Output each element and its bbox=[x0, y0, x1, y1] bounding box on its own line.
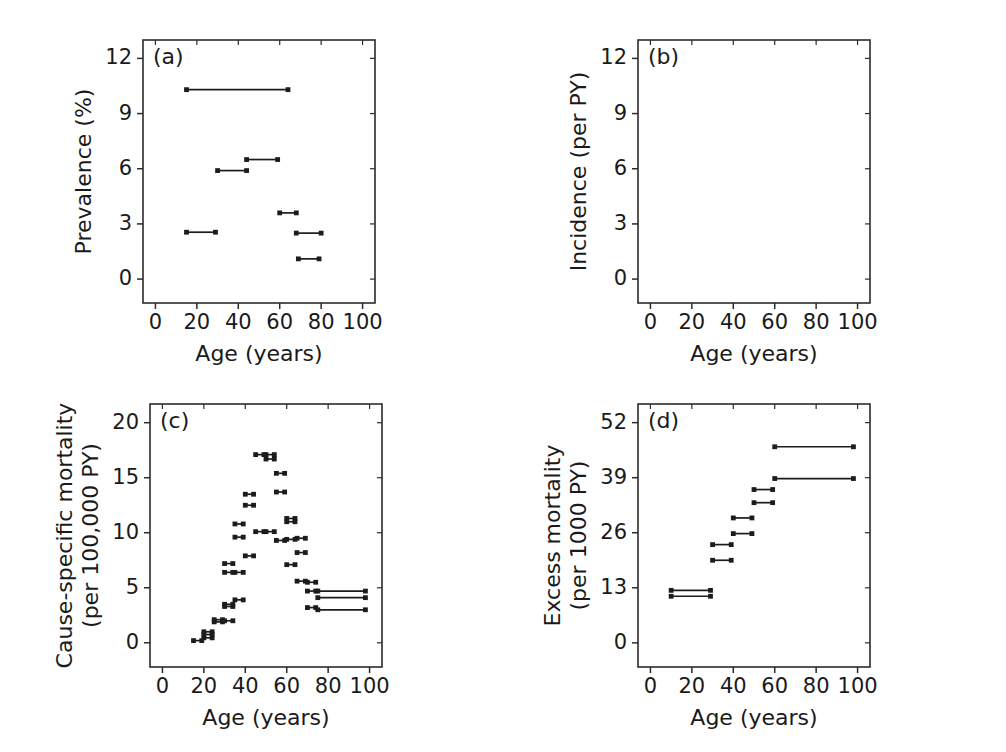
data-point-marker bbox=[282, 490, 287, 495]
data-point-marker bbox=[284, 562, 289, 567]
data-point-marker bbox=[284, 537, 289, 542]
data-point-marker bbox=[272, 452, 277, 457]
panel-b-canvas: 036912020406080100Age (years)Incidence (… bbox=[503, 0, 1006, 376]
data-point-marker bbox=[305, 589, 310, 594]
panel-d-ytick-label-0: 0 bbox=[614, 630, 627, 654]
panel-a-series bbox=[184, 87, 323, 261]
data-point-marker bbox=[305, 605, 310, 610]
panel-d-canvas: 013263952020406080100Age (years)Excess m… bbox=[503, 376, 1006, 752]
data-point-marker bbox=[251, 503, 256, 508]
data-point-marker bbox=[251, 553, 256, 558]
panel-c-xtick-label-4: 80 bbox=[315, 674, 342, 698]
data-point-marker bbox=[305, 580, 310, 585]
panel-b-xtick-label-3: 60 bbox=[761, 310, 788, 334]
data-point-marker bbox=[264, 452, 269, 457]
data-point-marker bbox=[710, 542, 715, 547]
data-point-marker bbox=[315, 595, 320, 600]
panel-d-ytick-label-1: 13 bbox=[600, 575, 627, 599]
panel-c-canvas: 05101520020406080100Age (years)Cause-spe… bbox=[0, 376, 503, 752]
panel-c-xtick-label-0: 0 bbox=[156, 674, 169, 698]
data-point-marker bbox=[729, 558, 734, 563]
data-point-marker bbox=[184, 87, 189, 92]
panel-d-letter: (d) bbox=[648, 408, 679, 433]
panel-a-xtick-label-2: 40 bbox=[225, 310, 252, 334]
data-point-marker bbox=[286, 87, 291, 92]
panel-d-xtick-label-0: 0 bbox=[644, 674, 657, 698]
panel-d-xlabel: Age (years) bbox=[690, 705, 817, 730]
panel-d-xtick-label-4: 80 bbox=[803, 674, 830, 698]
data-point-marker bbox=[274, 538, 279, 543]
data-point-marker bbox=[294, 210, 299, 215]
data-point-marker bbox=[295, 550, 300, 555]
data-point-marker bbox=[222, 618, 227, 623]
data-point-marker bbox=[274, 471, 279, 476]
data-point-marker bbox=[669, 588, 674, 593]
data-point-marker bbox=[770, 500, 775, 505]
panel-b-xtick-label-5: 100 bbox=[838, 310, 878, 334]
data-point-marker bbox=[731, 531, 736, 536]
data-point-marker bbox=[851, 444, 856, 449]
data-point-marker bbox=[295, 579, 300, 584]
panel-b-ytick-label-2: 6 bbox=[614, 156, 627, 180]
data-point-marker bbox=[243, 503, 248, 508]
panel-c-ytick-label-2: 10 bbox=[112, 520, 139, 544]
data-point-marker bbox=[293, 562, 298, 567]
panel-a-xtick-label-4: 80 bbox=[308, 310, 335, 334]
panel-d-ytick-label-2: 26 bbox=[600, 520, 627, 544]
panel-a-xtick-label-0: 0 bbox=[149, 310, 162, 334]
data-point-marker bbox=[222, 561, 227, 566]
panel-c-xtick-label-2: 40 bbox=[232, 674, 259, 698]
panel-d-ytick-label-4: 52 bbox=[600, 410, 627, 434]
data-point-marker bbox=[319, 231, 324, 236]
data-point-marker bbox=[363, 589, 368, 594]
panel-d-ylabel-line-2: (per 1000 PY) bbox=[566, 461, 591, 611]
panel-a-ytick-label-3: 9 bbox=[119, 101, 132, 125]
data-point-marker bbox=[222, 604, 227, 609]
panel-b: 036912020406080100Age (years)Incidence (… bbox=[503, 0, 1006, 376]
panel-c-ytick-label-1: 5 bbox=[126, 575, 139, 599]
panel-b-ylabel: Incidence (per PY) bbox=[566, 72, 591, 272]
data-point-marker bbox=[363, 607, 368, 612]
panel-b-ytick-label-4: 12 bbox=[600, 45, 627, 69]
panel-d-series bbox=[669, 444, 856, 598]
panel-a-ytick-label-0: 0 bbox=[119, 266, 132, 290]
panel-c-ylabel-line-1: Cause-specific mortality bbox=[52, 403, 77, 669]
data-point-marker bbox=[708, 588, 713, 593]
data-point-marker bbox=[293, 519, 298, 524]
panel-a-ytick-label-4: 12 bbox=[105, 45, 132, 69]
panel-c-ylabel-line-2: (per 100,000 PY) bbox=[78, 443, 103, 628]
panel-a-xlabel: Age (years) bbox=[195, 341, 322, 366]
data-point-marker bbox=[313, 580, 318, 585]
panel-d-xtick-label-3: 60 bbox=[761, 674, 788, 698]
panel-b-xlabel: Age (years) bbox=[690, 341, 817, 366]
panel-d-xtick-label-1: 20 bbox=[678, 674, 705, 698]
data-point-marker bbox=[284, 519, 289, 524]
data-point-marker bbox=[230, 618, 235, 623]
data-point-marker bbox=[272, 457, 277, 462]
data-point-marker bbox=[294, 231, 299, 236]
data-point-marker bbox=[296, 256, 301, 261]
data-point-marker bbox=[729, 542, 734, 547]
panel-c-xtick-label-5: 100 bbox=[350, 674, 390, 698]
data-point-marker bbox=[752, 500, 757, 505]
data-point-marker bbox=[233, 522, 238, 527]
data-point-marker bbox=[731, 516, 736, 521]
data-point-marker bbox=[233, 535, 238, 540]
data-point-marker bbox=[241, 535, 246, 540]
data-point-marker bbox=[213, 230, 218, 235]
data-point-marker bbox=[303, 550, 308, 555]
panel-d-ytick-label-3: 39 bbox=[600, 465, 627, 489]
data-point-marker bbox=[215, 168, 220, 173]
data-point-marker bbox=[243, 492, 248, 497]
data-point-marker bbox=[253, 452, 258, 457]
data-point-marker bbox=[212, 619, 217, 624]
data-point-marker bbox=[851, 476, 856, 481]
panel-c-ytick-label-0: 0 bbox=[126, 630, 139, 654]
data-point-marker bbox=[264, 529, 269, 534]
data-point-marker bbox=[669, 594, 674, 599]
data-point-marker bbox=[241, 597, 246, 602]
data-point-marker bbox=[191, 638, 196, 643]
panel-b-plot-frame bbox=[638, 40, 870, 303]
panel-a-xtick-label-5: 100 bbox=[343, 310, 383, 334]
panel-d: 013263952020406080100Age (years)Excess m… bbox=[503, 376, 1006, 752]
